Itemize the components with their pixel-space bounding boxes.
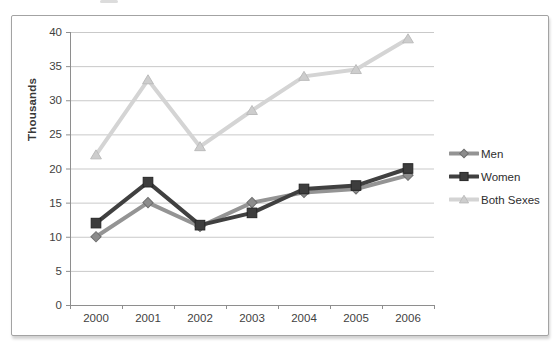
x-tick-label-2000: 2000 (83, 312, 109, 324)
y-axis-title: Thousands (23, 38, 40, 180)
y-tick-label-35: 35 (49, 60, 62, 72)
legend-item-men: Men (449, 142, 540, 165)
series-marker-square (247, 208, 257, 218)
series-women (91, 164, 413, 230)
legend: Men Women Both Sexes (449, 142, 540, 211)
y-tick-label-20: 20 (49, 163, 62, 175)
y-tick-label-30: 30 (49, 94, 62, 106)
legend-item-women: Women (449, 165, 540, 188)
series-marker-triangle (403, 34, 414, 43)
series-marker-square (351, 181, 361, 191)
y-tick-label-0: 0 (56, 299, 62, 311)
y-tick-label-25: 25 (49, 128, 62, 140)
series-marker-square (299, 184, 309, 194)
series-marker-triangle (143, 75, 154, 84)
series-marker-square (403, 164, 413, 174)
x-tick-label-2002: 2002 (187, 312, 213, 324)
both-sexes-series-marker-icon (449, 193, 479, 206)
x-tick-label-2005: 2005 (343, 312, 369, 324)
y-tick-label-15: 15 (49, 197, 62, 209)
series-marker-square (143, 177, 153, 187)
men-series-marker-icon (449, 147, 479, 160)
legend-item-both-sexes: Both Sexes (449, 188, 540, 211)
x-tick-label-2001: 2001 (135, 312, 161, 324)
series-both-sexes (91, 34, 414, 159)
legend-label-both-sexes: Both Sexes (481, 194, 540, 206)
x-tick-label-2003: 2003 (239, 312, 265, 324)
series-marker-square (460, 172, 468, 180)
series-marker-diamond (460, 149, 469, 158)
y-tick-label-10: 10 (49, 231, 62, 243)
series-marker-square (195, 220, 205, 230)
y-tick-label-40: 40 (49, 26, 62, 38)
chart-window: 0510152025303540200020012002200320042005… (0, 0, 558, 349)
x-tick-label-2004: 2004 (291, 312, 317, 324)
x-tick-label-2006: 2006 (395, 312, 421, 324)
women-series-marker-icon (449, 170, 479, 183)
legend-label-men: Men (481, 148, 503, 160)
series-line (96, 39, 408, 155)
series-marker-square (91, 218, 101, 228)
y-tick-label-5: 5 (56, 265, 62, 277)
legend-label-women: Women (481, 171, 520, 183)
